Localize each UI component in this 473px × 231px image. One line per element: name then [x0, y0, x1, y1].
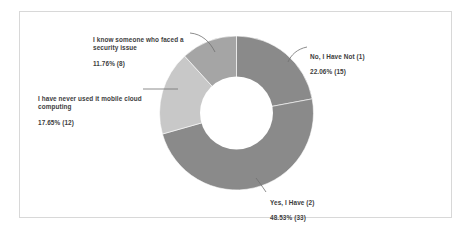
callout-yes-have-label: Yes, I Have (2) [270, 199, 314, 206]
callout-know-someone-percent: 11.76% (8) [93, 60, 189, 69]
callout-yes-have: Yes, I Have (2) 48.53% (33) [270, 190, 380, 231]
callout-know-someone-label: I know someone who faced a security issu… [93, 36, 184, 52]
chart-screenshot: I know someone who faced a security issu… [0, 0, 473, 231]
callout-know-someone: I know someone who faced a security issu… [93, 27, 189, 77]
callout-no-have-not-label: No, I Have Not (1) [310, 53, 365, 60]
callout-never-used-label: I have never used it mobile cloud comput… [38, 95, 142, 111]
callout-never-used-percent: 17.65% (12) [38, 119, 142, 128]
donut-hole [200, 77, 273, 150]
callout-never-used: I have never used it mobile cloud comput… [38, 86, 142, 136]
callout-yes-have-percent: 48.53% (33) [270, 214, 380, 223]
callout-no-have-not: No, I Have Not (1) 22.06% (15) [310, 44, 420, 85]
callout-no-have-not-percent: 22.06% (15) [310, 68, 420, 77]
